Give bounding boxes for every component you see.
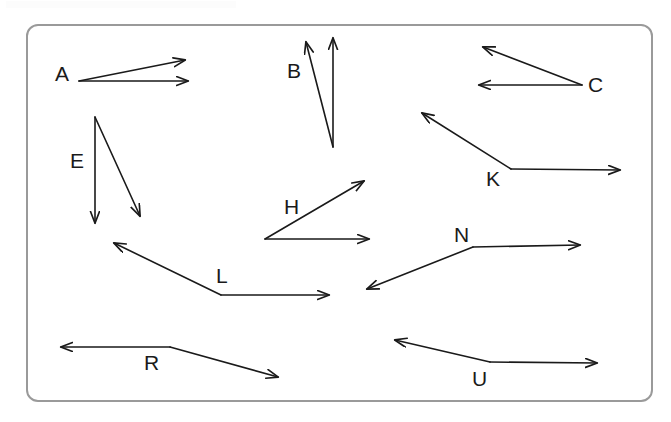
angle-label-e: E [70, 150, 84, 171]
angle-label-u: U [472, 368, 487, 389]
angle-label-l: L [216, 265, 228, 286]
angle-label-a: A [55, 63, 69, 84]
page-top-artifact [6, 1, 236, 8]
angle-label-n: N [454, 224, 469, 245]
angles-worksheet: ABCEHKLNRU [0, 0, 671, 422]
angle-label-k: K [486, 168, 500, 189]
angle-label-c: C [588, 74, 603, 95]
angle-label-r: R [144, 352, 159, 373]
angle-label-h: H [284, 196, 299, 217]
angle-label-b: B [287, 60, 301, 81]
angle-diagram-frame [26, 24, 653, 402]
